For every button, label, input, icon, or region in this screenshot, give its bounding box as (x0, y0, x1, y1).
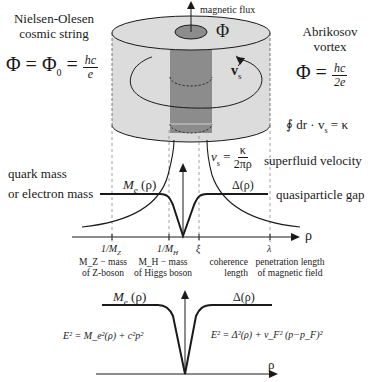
formula-lhs: Φ = Φ (6, 53, 57, 75)
upper-me-label: Me (ρ) (123, 178, 156, 195)
tick-desc-line1: coherence (196, 258, 248, 268)
superfluid-velocity-label: superfluid velocity (264, 154, 362, 167)
fraction-denominator: 2e (334, 76, 345, 89)
tick-label-1-over-mh: 1/MH (157, 244, 178, 257)
tick-desc-line2: of Higgs boson (128, 269, 198, 279)
tick-label-xi: ξ (196, 244, 200, 254)
circulation-formula: ∮ dr · vs = κ (286, 118, 348, 135)
abrikosov-title: Abrikosov vortex (290, 25, 370, 53)
lower-rho-label: ρ (268, 358, 275, 371)
superfluid-velocity-symbol: vs (231, 64, 242, 81)
abrikosov-title-line1: Abrikosov (290, 25, 370, 38)
bogoliubov-dispersion-formula: E² = Δ²(ρ) + v_F² (p−p_F)² (211, 330, 323, 340)
tick-desc-line2: length (196, 269, 248, 279)
tick-label-1-over-mz: 1/MZ (101, 244, 121, 257)
magnetic-flux-label: magnetic flux (200, 5, 255, 15)
quasiparticle-gap-label: quasiparticle gap (276, 188, 364, 201)
relativistic-dispersion-formula: E² = M_e²(ρ) + c²p² (63, 331, 143, 341)
me-arg: (ρ) (128, 289, 146, 304)
tick-desc-line1: M_H − mass (128, 258, 198, 268)
vs-denominator: 2πρ (234, 158, 252, 171)
tick-desc-xi: coherence length (196, 258, 248, 278)
me-symbol: M (113, 289, 124, 304)
formula-lhs: Φ = (296, 61, 332, 83)
tick-sub: Z (117, 249, 121, 257)
vs-eq: = (220, 149, 234, 164)
nielsen-olesen-title: Nielsen-Olesen cosmic string (8, 12, 100, 40)
quark-mass-label: quark mass (8, 167, 67, 180)
cylinder (112, 5, 270, 142)
tick-label-lambda: λ (267, 244, 271, 254)
vs-formula: vs = κ 2πρ (211, 144, 252, 171)
electron-mass-label: or electron mass (8, 187, 93, 200)
abrikosov-flux-formula: Φ = hc 2e (296, 62, 347, 89)
me-symbol: M (123, 177, 134, 192)
circulation-lhs: ∮ dr · v (286, 117, 324, 132)
tick-label: 1/M (101, 243, 117, 254)
nielsen-olesen-title-line2: cosmic string (8, 27, 100, 40)
flux-quantum-fraction: hc 2e (332, 62, 347, 89)
flux-quantum-fraction: hc e (83, 54, 98, 81)
fraction-denominator: e (88, 68, 93, 81)
me-arg: (ρ) (138, 177, 156, 192)
lower-me-label: Me (ρ) (113, 290, 146, 307)
circulation-rhs: = κ (328, 117, 348, 132)
tick-desc-line1: penetration length (250, 258, 330, 268)
tick-sub: H (173, 249, 178, 257)
flux-symbol: Φ (216, 22, 229, 40)
upper-rho-label: ρ (305, 229, 312, 243)
velocity-symbol: v (231, 63, 238, 78)
tick-desc-lambda: penetration length of magnetic field (250, 258, 330, 278)
fraction-numerator: hc (332, 62, 347, 76)
upper-delta-label: Δ(ρ) (232, 179, 254, 191)
mass-gap-profile (100, 194, 268, 236)
vs-numerator: κ (238, 144, 248, 158)
tick-desc-line2: of magnetic field (250, 269, 330, 279)
vs-fraction: κ 2πρ (234, 144, 252, 171)
nielsen-olesen-flux-formula: Φ = Φ0 = hc e (6, 54, 98, 81)
velocity-sub: s (238, 71, 242, 81)
formula-eq: = (62, 53, 83, 75)
lower-delta-label: Δ(ρ) (233, 291, 255, 303)
tick-desc-mh: M_H − mass of Higgs boson (128, 258, 198, 278)
tick-label: 1/M (157, 243, 173, 254)
fraction-numerator: hc (83, 54, 98, 68)
nielsen-olesen-title-line1: Nielsen-Olesen (8, 12, 100, 25)
abrikosov-title-line2: vortex (290, 40, 370, 53)
